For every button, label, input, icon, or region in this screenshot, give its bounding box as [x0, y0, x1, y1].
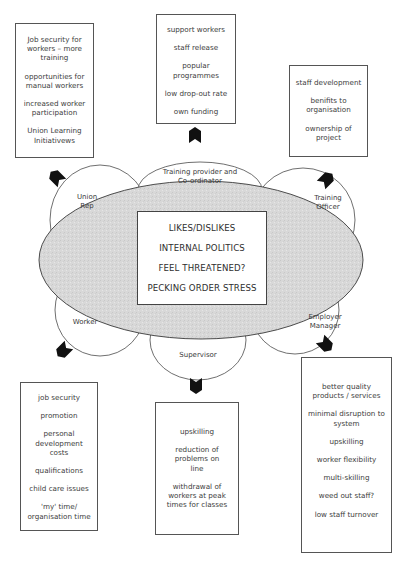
- benefit-item: own funding: [160, 107, 232, 116]
- benefit-item: personal development costs: [35, 429, 83, 457]
- training-provider-benefits-box: support workers staff release popular pr…: [156, 14, 236, 124]
- label-employer-manager: Employer Manager: [300, 313, 350, 331]
- benefit-item: job security: [24, 393, 94, 402]
- benefit-item: upskilling: [307, 437, 387, 446]
- label-line: Union: [62, 193, 112, 202]
- benefit-item: reduction of problems on line: [174, 445, 220, 473]
- benefit-item: minimal disruption to system: [307, 409, 387, 427]
- benefit-item: ownership of project: [303, 124, 355, 142]
- employer-manager-benefits-box: better quality products / services minim…: [301, 357, 392, 553]
- central-issue: PECKING ORDER STRESS: [147, 283, 256, 293]
- benefit-item: qualifications: [24, 466, 94, 475]
- label-worker: Worker: [60, 318, 110, 327]
- benefit-item: promotion: [24, 411, 94, 420]
- training-officer-benefits-box: staff development benifits to organisati…: [289, 65, 368, 157]
- benefit-item: benifits to organisation: [303, 96, 355, 114]
- benefit-item: better quality products / services: [311, 382, 383, 400]
- benefit-item: popular programmes: [171, 61, 221, 79]
- central-issues-box: LIKES/DISLIKES INTERNAL POLITICS FEEL TH…: [137, 211, 267, 305]
- central-issue: LIKES/DISLIKES: [169, 223, 236, 233]
- benefit-item: 'my' time/ organisation time: [24, 502, 94, 520]
- benefit-item: low drop-out rate: [160, 89, 232, 98]
- label-line: Manager: [300, 322, 350, 331]
- label-line: Worker: [60, 318, 110, 327]
- benefit-item: support workers: [160, 25, 232, 34]
- label-supervisor: Supervisor: [168, 351, 228, 360]
- central-issue: INTERNAL POLITICS: [159, 243, 245, 253]
- benefit-item: withdrawal of workers at peak times for …: [162, 482, 232, 510]
- label-line: Co-ordinator: [140, 177, 260, 186]
- label-line: Training provider and: [140, 168, 260, 177]
- arrow-up-icon: [189, 127, 201, 143]
- benefit-item: opportunities for manual workers: [24, 72, 86, 90]
- supervisor-benefits-box: upskilling reduction of problems on line…: [155, 402, 239, 535]
- benefit-item: upskilling: [161, 427, 233, 436]
- benefit-item: staff release: [160, 43, 232, 52]
- label-line: Rep: [62, 202, 112, 211]
- benefit-item: increased worker participation: [24, 99, 86, 117]
- benefit-item: staff development: [293, 78, 365, 87]
- benefit-item: worker flexibility: [307, 455, 387, 464]
- label-line: Officer: [303, 203, 353, 212]
- benefit-item: multi-skilling: [307, 473, 387, 482]
- union-rep-benefits-box: Job security for workers – more training…: [15, 23, 94, 158]
- label-training-officer: Training Officer: [303, 194, 353, 212]
- central-issue: FEEL THREATENED?: [159, 263, 246, 273]
- label-line: Training: [303, 194, 353, 203]
- label-union-rep: Union Rep: [62, 193, 112, 211]
- label-training-provider: Training provider and Co-ordinator: [140, 168, 260, 186]
- benefit-item: Job security for workers – more training: [24, 35, 86, 63]
- arrow-down-icon: [190, 378, 202, 394]
- label-line: Employer: [300, 313, 350, 322]
- benefit-item: weed out staff?: [307, 491, 387, 500]
- label-line: Supervisor: [168, 351, 228, 360]
- benefit-item: Union Learning Initiativews: [24, 126, 86, 144]
- worker-benefits-box: job security promotion personal developm…: [20, 382, 98, 531]
- benefit-item: low staff turnover: [307, 510, 387, 519]
- benefit-item: child care issues: [23, 484, 95, 493]
